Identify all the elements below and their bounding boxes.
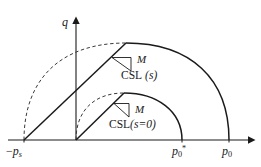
horizontal-axis-arrow — [248, 136, 256, 144]
tick-label-p0: p0 — [222, 145, 232, 159]
tick-label-p0star-superscript: * — [182, 144, 186, 153]
diagram-canvas — [0, 0, 261, 167]
csl-suction-text: CSL — [121, 69, 142, 81]
slope-label-m-outer: M — [137, 54, 146, 65]
slope-label-m-inner: M — [135, 104, 144, 115]
axis-label-q: q — [62, 16, 68, 28]
csl-saturated-slope-triangle — [114, 104, 129, 118]
vertical-axis-arrow — [72, 17, 79, 25]
tick-label-p0-subscript: 0 — [228, 150, 232, 159]
tick-label-ps-subscript: s — [19, 150, 22, 159]
inner-yield-surface-solid-branch — [124, 93, 182, 140]
csl-suction-arg: (s) — [145, 69, 157, 81]
csl-saturated-text: CSL — [109, 118, 130, 130]
curve-label-csl-saturated: CSL(s=0) — [109, 119, 156, 131]
curve-label-csl-suction: CSL(s) — [121, 70, 157, 82]
figure-container: q −ps p0* p0 M M CSL(s) CSL(s=0) — [0, 0, 261, 167]
minus-sign: − — [6, 144, 13, 158]
tick-label-minus-ps: −ps — [6, 145, 22, 159]
csl-saturated-line — [76, 93, 124, 140]
tick-label-p0-star: p0* — [172, 145, 186, 159]
csl-saturated-group — [76, 93, 129, 140]
csl-saturated-arg: (s=0) — [130, 118, 156, 130]
